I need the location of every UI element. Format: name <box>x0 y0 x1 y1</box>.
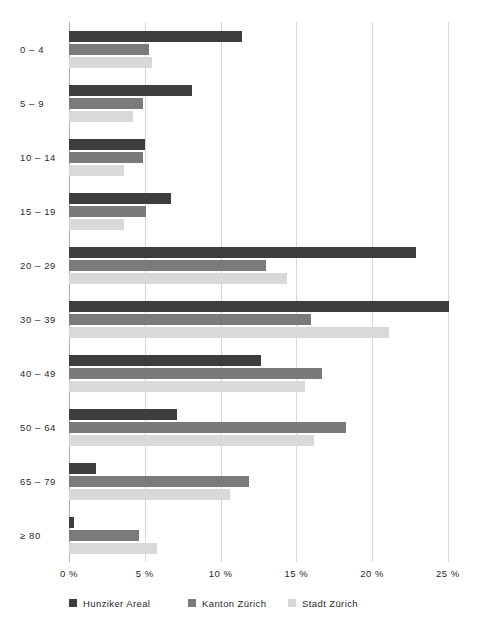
bar-group <box>69 346 463 400</box>
bar <box>69 31 242 42</box>
category-label: 10 – 14 <box>0 152 62 163</box>
value-axis-tick-labels: 0 %5 %10 %15 %20 %25 % <box>69 568 463 584</box>
bar <box>69 530 139 541</box>
bar-group <box>69 76 463 130</box>
bar-group <box>69 238 463 292</box>
legend-swatch-icon <box>288 599 296 607</box>
bar <box>69 247 416 258</box>
category-axis-labels: 0 – 45 – 910 – 1415 – 1920 – 2930 – 3940… <box>0 22 62 562</box>
bar <box>69 314 311 325</box>
bar <box>69 165 124 176</box>
bar-group <box>69 508 463 562</box>
x-tick-label: 5 % <box>136 568 154 579</box>
bar <box>69 327 389 338</box>
bar-group <box>69 292 463 346</box>
bar <box>69 98 143 109</box>
bar <box>69 368 322 379</box>
legend-label: Kanton Zürich <box>202 598 266 609</box>
bar <box>69 422 346 433</box>
x-tick-label: 25 % <box>436 568 460 579</box>
bar <box>69 476 249 487</box>
bar <box>69 206 146 217</box>
bar <box>69 111 133 122</box>
plot-area <box>69 22 463 562</box>
bar <box>69 44 149 55</box>
bar <box>69 57 152 68</box>
bar <box>69 301 449 312</box>
bar <box>69 435 314 446</box>
bar-groups <box>69 22 463 562</box>
x-tick-label: 15 % <box>284 568 308 579</box>
legend-label: Stadt Zürich <box>302 598 358 609</box>
category-label: ≥ 80 <box>0 530 62 541</box>
bar <box>69 409 177 420</box>
bar <box>69 355 261 366</box>
bar <box>69 152 143 163</box>
bar <box>69 273 287 284</box>
legend-item[interactable]: Hunziker Areal <box>69 598 150 609</box>
x-tick-label: 20 % <box>360 568 384 579</box>
x-tick-label: 10 % <box>209 568 233 579</box>
bar-group <box>69 22 463 76</box>
bar <box>69 381 305 392</box>
category-label: 5 – 9 <box>0 98 62 109</box>
legend-swatch-icon <box>188 599 196 607</box>
bar <box>69 139 145 150</box>
bar <box>69 193 171 204</box>
category-label: 40 – 49 <box>0 368 62 379</box>
x-tick-label: 0 % <box>60 568 78 579</box>
legend-item[interactable]: Kanton Zürich <box>188 598 266 609</box>
bar <box>69 219 124 230</box>
category-label: 15 – 19 <box>0 206 62 217</box>
bar <box>69 260 266 271</box>
category-label: 20 – 29 <box>0 260 62 271</box>
category-label: 0 – 4 <box>0 44 62 55</box>
bar <box>69 463 96 474</box>
legend-swatch-icon <box>69 599 77 607</box>
category-label: 30 – 39 <box>0 314 62 325</box>
bar-group <box>69 400 463 454</box>
legend-item[interactable]: Stadt Zürich <box>288 598 358 609</box>
bar-group <box>69 130 463 184</box>
category-label: 65 – 79 <box>0 476 62 487</box>
age-distribution-bar-chart: 0 – 45 – 910 – 1415 – 1920 – 2930 – 3940… <box>0 0 489 630</box>
bar <box>69 85 192 96</box>
bar-group <box>69 184 463 238</box>
category-label: 50 – 64 <box>0 422 62 433</box>
bar <box>69 517 74 528</box>
bar-group <box>69 454 463 508</box>
bar <box>69 543 157 554</box>
bar <box>69 489 230 500</box>
legend-label: Hunziker Areal <box>83 598 150 609</box>
